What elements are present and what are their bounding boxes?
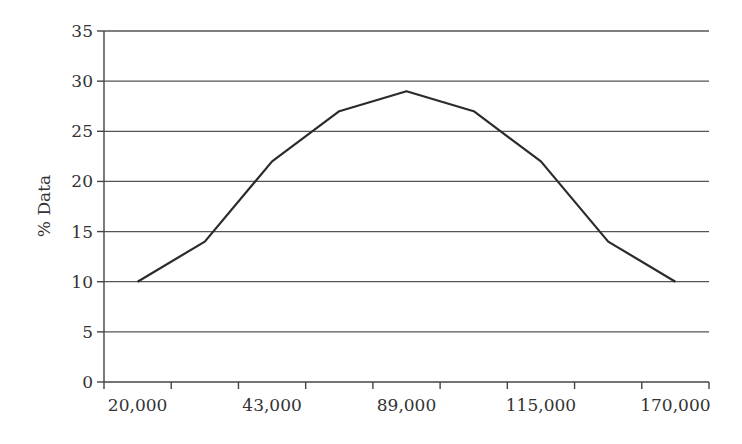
y-tick-label: 25 <box>71 121 93 141</box>
y-tick-label: 35 <box>71 21 93 41</box>
y-tick-label: 0 <box>82 372 93 392</box>
y-tick-label: 20 <box>71 171 93 191</box>
x-tick-label: 20,000 <box>108 395 167 415</box>
x-tick-label: 43,000 <box>242 395 301 415</box>
axes <box>104 31 709 382</box>
x-tick-label: 170,000 <box>640 395 710 415</box>
x-tick-label: 115,000 <box>506 395 576 415</box>
y-tick-label: 10 <box>71 272 93 292</box>
gridlines <box>104 31 709 332</box>
y-tick-label: 5 <box>82 322 93 342</box>
data-line <box>138 91 676 282</box>
x-tick-label: 89,000 <box>377 395 436 415</box>
line-chart: 05101520253035 20,00043,00089,000115,000… <box>0 0 742 444</box>
x-axis-ticks: 20,00043,00089,000115,000170,000 <box>104 382 711 415</box>
y-tick-label: 15 <box>71 222 93 242</box>
y-axis-label: % Data <box>34 175 54 237</box>
y-axis-ticks: 05101520253035 <box>71 21 104 392</box>
y-tick-label: 30 <box>71 71 93 91</box>
